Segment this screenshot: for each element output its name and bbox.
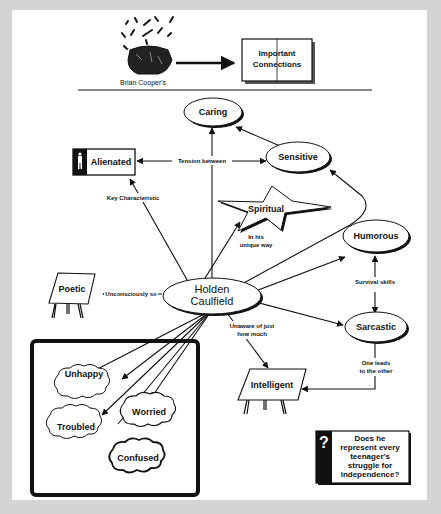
edge-label-unaware-2: how much (237, 331, 267, 337)
svg-text:Caulfield: Caulfield (191, 295, 234, 307)
svg-text:Sarcastic: Sarcastic (356, 322, 396, 332)
author-label: Brian Cooper's (120, 79, 167, 87)
svg-text:Humorous: Humorous (354, 231, 399, 241)
node-sarcastic: Sarcastic (345, 312, 409, 344)
svg-text:Troubled: Troubled (57, 422, 95, 432)
node-caring: Caring (184, 98, 244, 128)
edge-label-one-leads-2: to the other (360, 368, 394, 374)
node-worried: Worried (120, 392, 175, 426)
edge-label-unaware-1: Unaware of just (230, 323, 275, 329)
edge-label-tension: Tension between (178, 158, 227, 164)
edge-label-in-his-2: unique way (240, 242, 273, 248)
node-humorous: Humorous (343, 220, 411, 254)
svg-text:independence?: independence? (341, 470, 400, 479)
node-poetic: Poetic (49, 273, 95, 318)
svg-text:Caring: Caring (199, 107, 228, 117)
svg-text:Alienated: Alienated (91, 157, 132, 167)
node-unhappy: Unhappy (54, 364, 109, 398)
edge-label-key-characteristic: Key Characteristic (107, 195, 160, 201)
svg-text:Intelligent: Intelligent (251, 380, 294, 390)
node-confused: Confused (109, 438, 164, 472)
question-box: ? Does he represent every teenager's str… (316, 431, 411, 485)
question-mark-icon: ? (319, 434, 329, 451)
header-logo-icon (122, 17, 173, 74)
node-troubled: Troubled (46, 404, 101, 438)
svg-text:struggle for: struggle for (348, 461, 392, 470)
node-holden-caulfield: Holden Caulfield (163, 278, 263, 316)
book-title-line1: Important (259, 49, 296, 58)
node-spiritual: Spiritual (218, 186, 333, 233)
svg-text:Unhappy: Unhappy (65, 369, 104, 379)
book-title-line2: Connections (253, 60, 302, 69)
node-intelligent: Intelligent (238, 369, 306, 414)
concept-map: Brian Cooper's Important Connections (0, 0, 441, 514)
svg-text:Sensitive: Sensitive (278, 152, 318, 162)
svg-text:Holden: Holden (195, 283, 230, 295)
edge-label-one-leads-1: One leads (362, 360, 391, 366)
svg-text:teenager's: teenager's (350, 452, 390, 461)
svg-text:Poetic: Poetic (58, 284, 85, 294)
edge-label-survival: Survival skills (355, 279, 396, 285)
svg-text:Does he: Does he (354, 434, 386, 443)
svg-text:Worried: Worried (132, 407, 166, 417)
svg-text:represent every: represent every (340, 443, 400, 452)
node-alienated: Alienated (73, 149, 135, 175)
node-sensitive: Sensitive (266, 142, 332, 174)
edge-label-unconsciously: Unconsciously so (105, 291, 157, 297)
svg-text:Confused: Confused (117, 453, 159, 463)
svg-text:Spiritual: Spiritual (248, 204, 284, 214)
edge-label-in-his-1: In his (248, 234, 264, 240)
